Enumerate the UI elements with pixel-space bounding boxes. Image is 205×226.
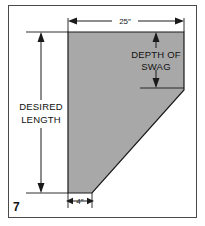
desired-length-label-line1: DESIRED [19, 101, 63, 112]
figure-container: 25″ DESIRED LENGTH DEPTH OF SWAG [0, 0, 205, 226]
swag-pattern-diagram: 25″ DESIRED LENGTH DEPTH OF SWAG [0, 0, 205, 226]
figure-number: 7 [13, 200, 20, 214]
depth-of-swag-label-line2: SWAG [141, 61, 170, 72]
depth-of-swag-label-line1: DEPTH OF [131, 49, 181, 60]
top-width-label: 25″ [119, 17, 131, 26]
bottom-width-label: 4″ [76, 197, 83, 206]
desired-length-label-line2: LENGTH [21, 114, 61, 125]
